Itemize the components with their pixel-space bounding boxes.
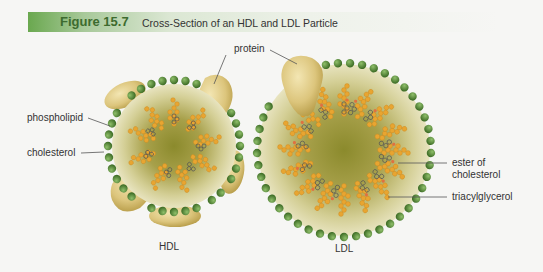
label-ester-line2: cholesterol bbox=[452, 169, 500, 181]
ldl-particle bbox=[253, 56, 436, 241]
lipoprotein-diagram bbox=[0, 0, 543, 272]
hdl-particle bbox=[100, 75, 248, 227]
label-cholesterol: cholesterol bbox=[27, 147, 75, 159]
label-ester-of-cholesterol: ester of cholesterol bbox=[452, 157, 500, 181]
hdl-core bbox=[112, 84, 236, 208]
label-triacylglycerol: triacylglycerol bbox=[452, 191, 513, 203]
particle-label-ldl: LDL bbox=[335, 243, 353, 255]
label-protein: protein bbox=[234, 43, 265, 55]
particle-label-hdl: HDL bbox=[159, 241, 179, 253]
label-phospholipid: phospholipid bbox=[27, 112, 83, 124]
label-ester-line1: ester of bbox=[452, 157, 500, 169]
